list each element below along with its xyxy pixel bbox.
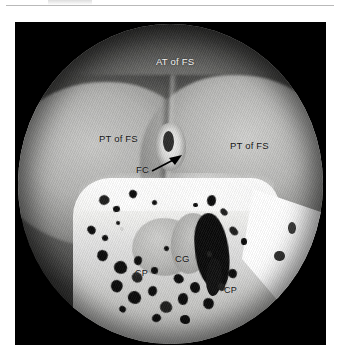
- wedge-dark-spot: [288, 222, 296, 234]
- bone-pore: [180, 315, 191, 324]
- bone-block-crown-highlight: [79, 173, 274, 211]
- wedge-dark-spot: [274, 251, 284, 261]
- figure-image-plate: AT of FS PT of FS PT of FS FC CG CP CP: [15, 22, 326, 345]
- frontal-cell-ostium: [163, 131, 174, 152]
- clipped-caption-trace: [48, 0, 92, 5]
- endoscope-circular-field: [18, 24, 323, 344]
- document-page: AT of FS PT of FS PT of FS FC CG CP CP: [0, 0, 340, 353]
- page-horizontal-rule: [6, 5, 334, 6]
